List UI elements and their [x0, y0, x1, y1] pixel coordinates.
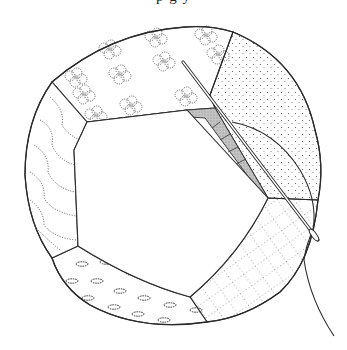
puzzle-ball-illustration: [0, 0, 347, 350]
